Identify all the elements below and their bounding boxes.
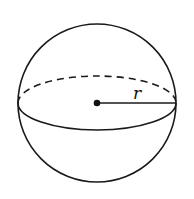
radius-label: r — [133, 83, 142, 103]
center-point — [94, 100, 101, 107]
sphere-diagram: r — [0, 0, 194, 199]
equator-back-dashed — [18, 76, 176, 103]
equator-front-solid — [18, 103, 176, 130]
